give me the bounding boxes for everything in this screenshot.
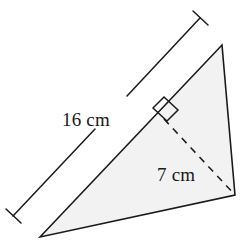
height-length-label: 7 cm — [157, 164, 195, 185]
geometry-figure: 16 cm 7 cm — [0, 0, 247, 244]
triangle-shape — [40, 45, 235, 237]
geometry-figure-svg: 16 cm 7 cm — [0, 0, 247, 244]
dimension-tick-start-icon — [6, 209, 21, 223]
base-length-label: 16 cm — [62, 109, 110, 130]
